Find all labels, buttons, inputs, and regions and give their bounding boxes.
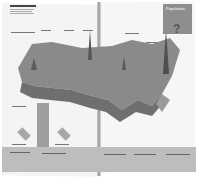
footer-band: [2, 147, 196, 172]
population-tower-graphic: [37, 103, 49, 147]
body-text: [10, 11, 32, 12]
info-box-title: Population: [166, 7, 185, 11]
headline: [10, 5, 36, 7]
footer-text: [134, 154, 156, 155]
caption: [55, 144, 69, 145]
body-text: [10, 13, 34, 14]
footer-text: [10, 152, 30, 153]
footer-text: [42, 153, 66, 154]
caption: [12, 106, 26, 107]
body-text: [10, 9, 34, 10]
caption: [12, 144, 26, 145]
footer-text: [166, 154, 190, 155]
question-mark: ?: [173, 22, 180, 36]
footer-text: [104, 154, 126, 155]
